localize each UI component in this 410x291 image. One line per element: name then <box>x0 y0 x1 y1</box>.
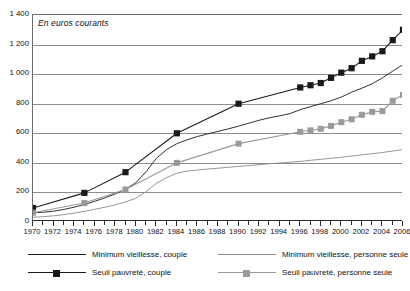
y-axis-label: 200 <box>2 187 29 195</box>
x-axis-label: 1984 <box>167 227 184 236</box>
x-axis-tick <box>248 221 249 225</box>
x-axis-tick <box>196 221 197 226</box>
series-marker-seuil_pauvrete_personne_seule <box>369 109 375 115</box>
series-marker-seuil_pauvrete_personne_seule <box>338 119 344 125</box>
legend-item[interactable]: Minimum vieillesse, personne seule <box>218 248 408 261</box>
y-axis: 02004006008001 0001 2001 400 <box>0 0 29 235</box>
y-axis-label: 400 <box>2 158 29 166</box>
y-axis-label: 0 <box>2 217 29 225</box>
series-marker-seuil_pauvrete_personne_seule <box>379 108 385 114</box>
legend-label: Seuil pauvreté, personne seule <box>276 268 392 277</box>
x-axis-tick <box>381 221 382 226</box>
y-axis-label: 600 <box>2 128 29 136</box>
x-axis-label: 2004 <box>373 227 390 236</box>
x-axis-tick <box>258 221 259 226</box>
x-axis-tick <box>310 221 311 225</box>
x-axis-tick <box>392 221 393 225</box>
series-marker-seuil_pauvrete_couple <box>379 48 385 54</box>
legend-marker-swatch <box>53 270 60 277</box>
series-marker-seuil_pauvrete_couple <box>235 101 241 107</box>
x-axis-label: 2002 <box>352 227 369 236</box>
y-axis-label: 1 000 <box>2 69 29 77</box>
series-marker-seuil_pauvrete_couple <box>174 130 180 136</box>
series-marker-seuil_pauvrete_personne_seule <box>236 141 242 147</box>
series-marker-seuil_pauvrete_couple <box>307 82 313 88</box>
series-marker-seuil_pauvrete_personne_seule <box>33 210 36 216</box>
x-axis-label: 2000 <box>332 227 349 236</box>
series-marker-seuil_pauvrete_couple <box>328 75 334 81</box>
series-line-seuil_pauvrete_personne_seule <box>33 95 402 213</box>
y-axis-label: 800 <box>2 99 29 107</box>
x-axis-label: 1976 <box>85 227 102 236</box>
x-axis-tick <box>135 221 136 226</box>
x-axis-tick <box>63 221 64 225</box>
x-axis-label: 1974 <box>65 227 82 236</box>
series-marker-seuil_pauvrete_personne_seule <box>328 123 334 129</box>
x-axis-tick <box>125 221 126 225</box>
series-marker-seuil_pauvrete_personne_seule <box>390 98 396 104</box>
x-axis-tick <box>207 221 208 225</box>
x-axis-tick <box>42 221 43 225</box>
series-marker-seuil_pauvrete_couple <box>349 65 355 71</box>
legend-marker-swatch <box>243 270 250 277</box>
x-axis-ticks <box>32 221 402 226</box>
series-marker-seuil_pauvrete_personne_seule <box>308 127 314 133</box>
x-axis-label: 1970 <box>24 227 41 236</box>
series-marker-seuil_pauvrete_personne_seule <box>81 200 87 206</box>
x-axis-tick <box>351 221 352 225</box>
legend-item[interactable]: Seuil pauvreté, personne seule <box>218 266 392 279</box>
x-axis-tick <box>104 221 105 225</box>
x-axis-tick <box>186 221 187 225</box>
series-marker-seuil_pauvrete_couple <box>297 84 303 90</box>
series-marker-seuil_pauvrete_couple <box>81 190 87 196</box>
legend-key-minimum_vieillesse_couple <box>28 249 86 261</box>
series-marker-seuil_pauvrete_couple <box>359 58 365 64</box>
legend-line-swatch <box>218 254 276 255</box>
x-axis-tick <box>340 221 341 226</box>
series-marker-seuil_pauvrete_couple <box>338 70 344 76</box>
x-axis-tick <box>32 221 33 226</box>
series-marker-seuil_pauvrete_couple <box>369 53 375 59</box>
x-axis-tick <box>83 221 84 225</box>
x-axis-label: 2006 <box>394 227 410 236</box>
legend-item[interactable]: Seuil pauvreté, couple <box>28 266 171 279</box>
x-axis-label: 1978 <box>106 227 123 236</box>
x-axis-tick <box>289 221 290 225</box>
x-axis-label: 1992 <box>250 227 267 236</box>
series-marker-seuil_pauvrete_personne_seule <box>174 160 180 166</box>
series-marker-seuil_pauvrete_personne_seule <box>359 112 365 118</box>
series-marker-seuil_pauvrete_personne_seule <box>297 129 303 135</box>
x-axis-tick <box>330 221 331 225</box>
y-axis-label: 1 200 <box>2 40 29 48</box>
series-marker-seuil_pauvrete_couple <box>318 80 324 86</box>
x-axis-label: 1988 <box>209 227 226 236</box>
legend-line-swatch <box>28 254 86 255</box>
x-axis-label: 1998 <box>311 227 328 236</box>
x-axis-label: 1994 <box>270 227 287 236</box>
legend-key-seuil_pauvrete_personne_seule <box>218 267 276 279</box>
x-axis-tick <box>114 221 115 226</box>
legend-label: Seuil pauvreté, couple <box>86 268 171 277</box>
legend-label: Minimum vieillesse, couple <box>86 250 187 259</box>
x-axis-tick <box>402 221 403 226</box>
x-axis-tick <box>166 221 167 225</box>
series-marker-seuil_pauvrete_couple <box>390 37 396 43</box>
x-axis-tick <box>94 221 95 226</box>
x-axis-tick <box>371 221 372 225</box>
series-line-seuil_pauvrete_couple <box>33 30 402 208</box>
legend-item[interactable]: Minimum vieillesse, couple <box>28 248 187 261</box>
x-axis-label: 1982 <box>147 227 164 236</box>
y-axis-label: 1 400 <box>2 10 29 18</box>
chart-legend: Minimum vieillesse, coupleSeuil pauvreté… <box>0 248 407 288</box>
x-axis-tick <box>145 221 146 225</box>
x-axis-tick <box>299 221 300 226</box>
x-axis-tick <box>320 221 321 226</box>
series-marker-seuil_pauvrete_personne_seule <box>318 126 324 132</box>
x-axis-tick <box>53 221 54 226</box>
x-axis-tick <box>238 221 239 226</box>
x-axis-label: 1990 <box>229 227 246 236</box>
legend-label: Minimum vieillesse, personne seule <box>276 250 408 259</box>
series-marker-seuil_pauvrete_personne_seule <box>349 116 355 122</box>
x-axis-label: 1986 <box>188 227 205 236</box>
x-axis-tick <box>217 221 218 226</box>
